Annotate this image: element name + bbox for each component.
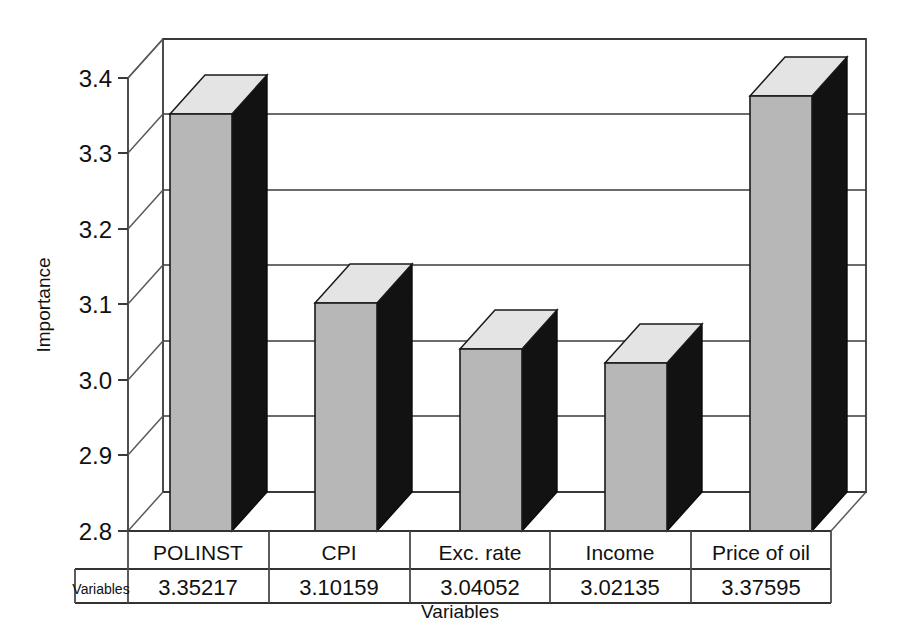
chart-container: 3.4 3.3 3.2 3.1 3.0 2.9 2.8 Importance — [0, 0, 921, 625]
bar-front-polinst — [170, 114, 232, 531]
data-table: POLINST CPI Exc. rate Income Price of oi… — [72, 531, 831, 603]
y-axis-title: Importance — [33, 257, 54, 352]
y-tick-label-3.4: 3.4 — [79, 65, 112, 92]
table-value-polinst: 3.35217 — [158, 575, 238, 600]
bar-side-price-of-oil — [812, 57, 847, 531]
depth-tick-2.9 — [128, 416, 163, 455]
depth-tick-3.4 — [128, 39, 163, 78]
bar-front-cpi — [315, 303, 377, 531]
y-tick-label-3.2: 3.2 — [79, 216, 112, 243]
depth-tick-3.3 — [128, 114, 163, 153]
table-header-polinst: POLINST — [153, 541, 243, 564]
y-axis-ticks — [118, 78, 128, 531]
y-tick-label-2.8: 2.8 — [79, 518, 112, 545]
depth-tick-3.0 — [128, 341, 163, 380]
y-tick-label-2.9: 2.9 — [79, 442, 112, 469]
table-value-cpi: 3.10159 — [299, 575, 379, 600]
table-value-income: 3.02135 — [580, 575, 660, 600]
bar-group-income[interactable] — [605, 324, 702, 531]
bar-front-income — [605, 363, 667, 531]
y-tick-label-3.1: 3.1 — [79, 291, 112, 318]
bar-group-exc-rate[interactable] — [460, 310, 557, 531]
bar-group-price-of-oil[interactable] — [750, 57, 847, 531]
bar-front-price-of-oil — [750, 96, 812, 531]
y-tick-label-3.3: 3.3 — [79, 140, 112, 167]
depth-tick-3.1 — [128, 265, 163, 304]
bar-group-polinst[interactable] — [170, 75, 267, 531]
table-value-price-of-oil: 3.37595 — [721, 575, 801, 600]
bar-side-cpi — [377, 264, 412, 531]
table-value-exc-rate: 3.04052 — [440, 575, 520, 600]
bar-group-cpi[interactable] — [315, 264, 412, 531]
table-header-income: Income — [586, 541, 655, 564]
table-row-label: Variables — [72, 581, 129, 597]
bar-side-polinst — [232, 75, 267, 531]
table-header-cpi: CPI — [321, 541, 356, 564]
y-axis-tick-labels: 3.4 3.3 3.2 3.1 3.0 2.9 2.8 — [79, 65, 112, 545]
table-header-exc-rate: Exc. rate — [439, 541, 522, 564]
bar-chart-3d: 3.4 3.3 3.2 3.1 3.0 2.9 2.8 Importance — [0, 0, 921, 625]
y-tick-label-3.0: 3.0 — [79, 367, 112, 394]
depth-tick-3.2 — [128, 190, 163, 229]
table-header-price-of-oil: Price of oil — [712, 541, 810, 564]
depth-edge-bottom-left — [128, 492, 163, 531]
x-axis-title: Variables — [421, 601, 499, 622]
bar-front-exc-rate — [460, 349, 522, 531]
